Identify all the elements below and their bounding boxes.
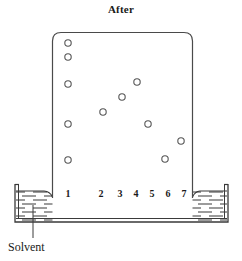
lane-number-6: 6 (162, 188, 174, 200)
lane-number-7: 7 (178, 188, 190, 200)
lane-number-5: 5 (146, 188, 158, 200)
lane-number-4: 4 (130, 188, 142, 200)
tlc-plate (53, 33, 193, 199)
lane-number-2: 2 (95, 188, 107, 200)
tlc-diagram-canvas (0, 0, 242, 261)
plate-outline (53, 33, 193, 199)
lane-number-1: 1 (62, 188, 74, 200)
lane-number-3: 3 (114, 188, 126, 200)
solvent-label: Solvent (8, 240, 45, 254)
tlc-figure: After (0, 0, 242, 261)
